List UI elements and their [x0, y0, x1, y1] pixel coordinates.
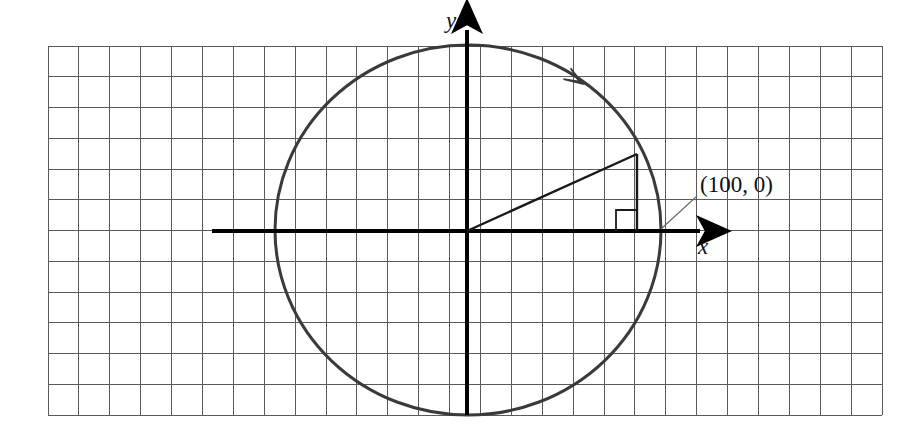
circle-diagram: y x (100, 0)	[0, 0, 920, 436]
figure-container: y x (100, 0)	[0, 0, 920, 436]
x-axis-label: x	[697, 234, 709, 259]
y-axis-label: y	[444, 8, 457, 33]
paper-background	[0, 0, 920, 436]
point-coordinate-label: (100, 0)	[700, 172, 773, 197]
